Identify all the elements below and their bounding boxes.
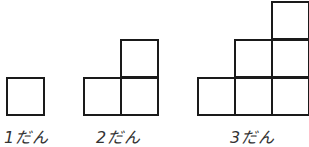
square	[271, 1, 309, 40]
figure-label-1: 1だん	[4, 124, 49, 147]
square	[120, 39, 159, 78]
figure-label-2: 2だん	[96, 124, 141, 147]
figure-label-3: 3だん	[230, 124, 275, 147]
square	[83, 77, 122, 116]
square	[234, 39, 273, 78]
square	[234, 77, 273, 116]
square	[271, 39, 309, 78]
square	[6, 77, 45, 116]
square	[271, 77, 309, 116]
square	[197, 77, 236, 116]
square	[120, 77, 159, 116]
